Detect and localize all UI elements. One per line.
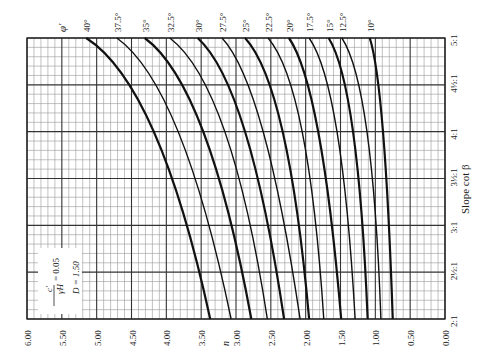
n-tick-label: 1.00 [371, 330, 381, 346]
n-tick-label: 3.50 [197, 330, 207, 346]
phi-curve-labels: 40°37.5°35°32.5°30°27.5°25°22.5°20°17.5°… [82, 12, 376, 32]
phi-curve-label: 25° [241, 19, 251, 32]
n-tick-label: 0.00 [441, 330, 451, 346]
ratio-denominator: γH [55, 283, 65, 294]
slope-tick-label: 4½:1 [449, 75, 459, 93]
ratio-numerator: c′ [44, 285, 54, 292]
n-tick-label: 5.00 [93, 330, 103, 346]
n-tick-label: 0.50 [406, 330, 416, 346]
n-tick-label: 1.50 [337, 330, 347, 346]
parameter-annotation: c′ γH = 0.05 D = 1.50 [38, 248, 82, 314]
slope-tick-label: 3½:1 [449, 168, 459, 186]
slope-axis-label: Slope cot β [459, 164, 471, 214]
n-tick-label: 4.00 [162, 330, 172, 346]
slope-tick-label: 2½:1 [449, 262, 459, 280]
phi-curve-label: 20° [285, 19, 295, 32]
phi-curve-label: 12.5° [338, 12, 348, 32]
phi-curve-label: 40° [82, 19, 92, 32]
n-tick-label: 4.50 [128, 330, 138, 346]
slope-tick-label: 5:1 [449, 34, 459, 46]
n-tick-label: 2.00 [302, 330, 312, 346]
n-axis-ticks: 6.005.505.004.504.003.503.002.502.001.50… [23, 330, 451, 346]
n-axis-label: n [220, 341, 231, 346]
phi-legend-title: φ′ [56, 23, 68, 32]
n-tick-label: 3.00 [232, 330, 242, 346]
chart: 40°37.5°35°32.5°30°27.5°25°22.5°20°17.5°… [0, 0, 495, 364]
n-tick-label: 5.50 [58, 330, 68, 346]
slope-tick-label: 4:1 [449, 128, 459, 140]
ratio-value: = 0.05 [51, 257, 61, 281]
n-tick-label: 2.50 [267, 330, 277, 346]
phi-curve-label: 17.5° [305, 12, 315, 32]
phi-curve-label: 37.5° [113, 12, 123, 32]
phi-curve-label: 10° [366, 19, 376, 32]
phi-curve-label: 15° [325, 19, 335, 32]
slope-axis-ticks: 2:12½:13:13½:14:14½:15:1 [449, 34, 459, 327]
phi-curve-label: 30° [194, 19, 204, 32]
slope-tick-label: 3:1 [449, 222, 459, 234]
phi-curve-label: 35° [141, 19, 151, 32]
phi-curve-label: 27.5° [218, 12, 228, 32]
depth-factor: D = 1.50 [71, 261, 81, 295]
n-tick-label: 6.00 [23, 330, 33, 346]
phi-curve-label: 32.5° [166, 12, 176, 32]
slope-tick-label: 2:1 [449, 315, 459, 327]
phi-curve-label: 22.5° [264, 12, 274, 32]
